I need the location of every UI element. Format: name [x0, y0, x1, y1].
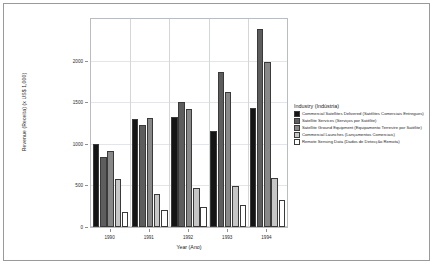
x-axis-ticks: 19901991199219931994: [90, 229, 288, 245]
legend-label: Satellite Ground Equipment (Equipamento …: [302, 125, 422, 131]
legend-item[interactable]: Commercial Satellites Delivered (Satélit…: [294, 111, 430, 117]
legend-item[interactable]: Satellite Ground Equipment (Equipamento …: [294, 125, 430, 131]
bar: [147, 118, 154, 227]
bar: [257, 29, 264, 227]
y-axis-ticks: 0500100015002000: [48, 18, 88, 230]
bar: [250, 108, 257, 227]
x-tick-label: 1994: [261, 235, 271, 240]
bar: [264, 62, 271, 227]
bar: [210, 131, 217, 227]
legend-swatch: [294, 132, 300, 138]
bar: [186, 109, 193, 227]
legend-item[interactable]: Remote Sensing Data (Dados de Detecção R…: [294, 139, 430, 145]
y-tick-label: 500: [75, 183, 83, 188]
bar: [100, 157, 107, 227]
bar: [93, 144, 100, 227]
x-tick-label: 1991: [144, 235, 154, 240]
legend-label: Remote Sensing Data (Dados de Detecção R…: [302, 139, 400, 145]
bar: [240, 205, 247, 227]
bar: [232, 186, 239, 227]
y-tick-mark: [85, 61, 88, 62]
bar: [193, 188, 200, 227]
bar: [161, 210, 168, 227]
plot-area: [91, 19, 287, 227]
bar: [122, 212, 129, 227]
legend-item[interactable]: Commercial Launches (Lançamentos Comerci…: [294, 132, 430, 138]
y-tick-label: 1000: [73, 141, 83, 146]
y-tick-mark: [85, 102, 88, 103]
bar: [132, 119, 139, 227]
legend-swatch: [294, 125, 300, 131]
bar: [115, 179, 122, 227]
y-tick-label: 1500: [73, 100, 83, 105]
chart-figure: Revenue (Receita) (x US$ 1,000) 05001000…: [3, 3, 430, 261]
bar: [154, 194, 161, 227]
y-tick-label: 2000: [73, 58, 83, 63]
legend-swatch: [294, 118, 300, 124]
legend-swatch: [294, 139, 300, 145]
bar: [271, 178, 278, 227]
x-tick-mark: [110, 229, 111, 232]
legend-title: Industry (Indústria): [294, 103, 430, 109]
bar: [279, 200, 286, 227]
x-tick-label: 1993: [222, 235, 232, 240]
bar: [178, 102, 185, 227]
bar: [139, 125, 146, 227]
y-axis-title: Revenue (Receita) (x US$ 1,000): [21, 37, 27, 187]
y-tick-label: 0: [80, 225, 83, 230]
legend-label: Commercial Satellites Delivered (Satélit…: [302, 111, 424, 117]
legend-label: Satellite Services (Serviços por Satélit…: [302, 118, 376, 124]
x-tick-mark: [149, 229, 150, 232]
plot-frame: [90, 18, 288, 228]
bar: [107, 151, 114, 227]
y-tick-mark: [85, 185, 88, 186]
y-tick-mark: [85, 144, 88, 145]
y-tick-mark: [85, 227, 88, 228]
bar: [200, 207, 207, 227]
legend: Industry (Indústria) Commercial Satellit…: [294, 103, 430, 146]
bar: [218, 72, 225, 227]
x-tick-label: 1990: [104, 235, 114, 240]
x-tick-label: 1992: [183, 235, 193, 240]
bar: [171, 117, 178, 227]
x-tick-mark: [266, 229, 267, 232]
legend-item[interactable]: Satellite Services (Serviços por Satélit…: [294, 118, 430, 124]
legend-rows: Commercial Satellites Delivered (Satélit…: [294, 111, 430, 145]
x-tick-mark: [227, 229, 228, 232]
legend-label: Commercial Launches (Lançamentos Comerci…: [302, 132, 395, 138]
bar: [225, 92, 232, 227]
x-axis-title: Year (Ano): [90, 244, 288, 250]
legend-swatch: [294, 111, 300, 117]
x-tick-mark: [188, 229, 189, 232]
